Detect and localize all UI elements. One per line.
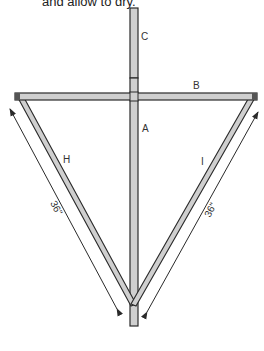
frame-diagram: C B A H I 36" 36" — [0, 0, 264, 351]
post-a-overlap — [130, 92, 138, 101]
label-b: B — [193, 80, 200, 91]
brace-i — [131, 94, 256, 306]
dimension-label-left: 36" — [48, 199, 65, 218]
post-c — [130, 8, 138, 78]
label-h: H — [63, 154, 70, 165]
dimension-label-right: 36" — [202, 200, 219, 219]
brace-h — [17, 94, 136, 306]
post-a — [130, 78, 138, 326]
label-c: C — [141, 31, 148, 42]
label-a: A — [142, 123, 149, 134]
label-i: I — [201, 156, 204, 167]
